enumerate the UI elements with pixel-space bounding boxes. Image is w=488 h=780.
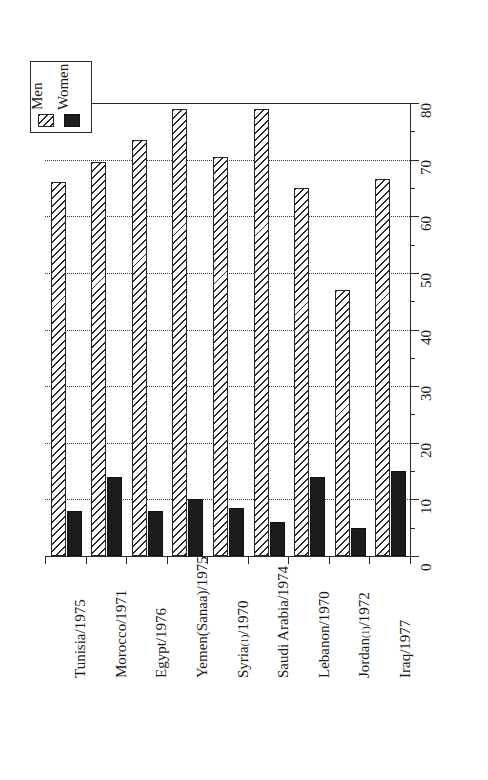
bar-men-0 — [51, 182, 66, 556]
legend-label-women: Women — [55, 64, 71, 110]
axis-tick-label-10: 10 — [419, 480, 433, 514]
bar-women-7 — [351, 528, 366, 556]
bar-men-7 — [335, 290, 350, 556]
category-tick-5 — [248, 556, 249, 564]
legend-swatch-men — [38, 114, 54, 127]
category-axis — [45, 556, 411, 557]
axis-tick-label-60: 60 — [419, 197, 433, 231]
bar-men-6 — [294, 188, 309, 556]
category-tick-8 — [369, 556, 370, 564]
legend-label-men: Men — [29, 83, 45, 111]
axis-tick-label-30: 30 — [419, 367, 433, 401]
category-tick-1 — [86, 556, 87, 564]
bar-men-8 — [375, 179, 390, 556]
category-tick-2 — [126, 556, 127, 564]
axis-tick-label-0: 0 — [419, 537, 433, 571]
category-label-4: Syria(1)/1970 — [235, 600, 251, 678]
bar-women-1 — [107, 477, 122, 556]
category-label-7: Jordan(1)/1972 — [356, 592, 372, 678]
category-tick-end — [410, 556, 411, 564]
bar-men-4 — [213, 157, 228, 556]
plot-area — [45, 103, 410, 556]
bar-men-2 — [132, 140, 147, 556]
category-tick-0 — [45, 556, 46, 564]
axis-tick-label-50: 50 — [419, 254, 433, 288]
bar-women-8 — [391, 471, 406, 556]
category-label-3: Yemen(Sanaa)/1975 — [194, 556, 210, 678]
category-tick-6 — [288, 556, 289, 564]
category-label-6: Lebanon/1970 — [316, 591, 332, 678]
bar-women-6 — [310, 477, 325, 556]
bar-men-5 — [254, 109, 269, 556]
bar-women-2 — [148, 511, 163, 556]
axis-minor-tick — [410, 131, 415, 132]
bar-men-3 — [172, 109, 187, 556]
bar-chart: 01020304050607080 Tunisia/1975Morocco/19… — [0, 0, 488, 780]
category-label-2: Egypt/1976 — [153, 608, 169, 678]
axis-minor-tick — [410, 471, 415, 472]
category-label-5: Saudi Arabia/1974 — [275, 566, 291, 678]
category-label-0: Tunisia/1975 — [72, 599, 88, 678]
category-tick-7 — [329, 556, 330, 564]
bar-women-0 — [67, 511, 82, 556]
bar-men-1 — [91, 162, 106, 556]
category-label-8: Iraq/1977 — [397, 620, 413, 678]
axis-minor-tick — [410, 528, 415, 529]
axis-tick-label-40: 40 — [419, 311, 433, 345]
category-label-1: Morocco/1971 — [113, 590, 129, 678]
chart-legend: Men Women — [30, 61, 92, 133]
category-tick-3 — [167, 556, 168, 564]
axis-minor-tick — [410, 245, 415, 246]
bar-women-5 — [270, 522, 285, 556]
bar-women-4 — [229, 508, 244, 556]
axis-tick-label-20: 20 — [419, 424, 433, 458]
axis-minor-tick — [410, 188, 415, 189]
axis-tick-label-70: 70 — [419, 141, 433, 175]
axis-minor-tick — [410, 301, 415, 302]
axis-minor-tick — [410, 358, 415, 359]
bar-women-3 — [188, 499, 203, 556]
legend-swatch-women — [64, 114, 80, 127]
category-tick-4 — [207, 556, 208, 564]
axis-tick-label-80: 80 — [419, 84, 433, 118]
axis-minor-tick — [410, 414, 415, 415]
axis-tick-0 — [410, 556, 419, 557]
